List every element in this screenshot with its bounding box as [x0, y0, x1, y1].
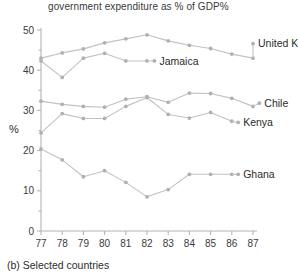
y-tick-label: 40: [23, 65, 35, 76]
data-point: [188, 91, 192, 95]
x-tick-label: 77: [35, 238, 47, 249]
data-point: [166, 113, 170, 117]
data-point: [39, 59, 43, 63]
data-point: [82, 117, 86, 121]
data-point: [60, 112, 64, 116]
x-tick-label: 82: [141, 238, 153, 249]
y-tick-labels-group: 01020304050: [23, 25, 35, 237]
series-label-chile: Chile: [264, 97, 288, 109]
data-point: [257, 101, 261, 105]
series-line-united-kingdom: [41, 35, 253, 58]
y-tick-label: 20: [23, 145, 35, 156]
series-line-jamaica: [41, 53, 147, 77]
data-point: [145, 96, 149, 100]
figure-caption: (b) Selected countries: [7, 259, 109, 271]
data-point: [60, 51, 64, 55]
data-point: [124, 97, 128, 101]
data-point: [103, 105, 107, 109]
data-point: [39, 99, 43, 103]
data-point: [103, 117, 107, 121]
figure-container: government expenditure as % of GDP% % 01…: [0, 0, 298, 280]
series-label-ghana: Ghana: [243, 168, 275, 180]
series-labels-group: United KingdomJamaicaChileKenyaGhana: [159, 37, 298, 180]
data-point: [39, 147, 43, 151]
data-point: [153, 59, 157, 63]
data-point: [39, 131, 43, 135]
y-tick-label: 50: [23, 25, 35, 36]
data-series-group: [39, 33, 261, 199]
data-point: [209, 92, 213, 96]
data-point: [145, 33, 149, 37]
x-tick-label: 80: [99, 238, 111, 249]
data-point: [103, 41, 107, 45]
series-line-kenya: [41, 98, 232, 133]
x-tick-label: 81: [120, 238, 132, 249]
data-point: [82, 175, 86, 179]
data-point: [145, 195, 149, 199]
data-point: [236, 121, 240, 125]
data-point: [60, 158, 64, 162]
data-point: [236, 172, 240, 176]
x-tick-label: 85: [205, 238, 217, 249]
data-point: [124, 104, 128, 108]
data-point: [124, 180, 128, 184]
data-point: [124, 37, 128, 41]
axes-group: [41, 28, 257, 231]
y-tick-label: 0: [28, 226, 34, 237]
x-tick-label: 86: [226, 238, 238, 249]
line-chart-plot: 01020304050 7778798081828384858687 Unite…: [0, 0, 298, 280]
y-tick-label: 10: [23, 185, 35, 196]
x-tick-label: 78: [57, 238, 69, 249]
data-point: [251, 42, 255, 46]
series-label-united-kingdom: United Kingdom: [258, 37, 298, 49]
data-point: [209, 111, 213, 115]
y-tick-label: 30: [23, 105, 35, 116]
data-point: [60, 102, 64, 106]
data-point: [188, 172, 192, 176]
series-label-jamaica: Jamaica: [159, 55, 198, 67]
data-point: [188, 43, 192, 47]
data-point: [166, 188, 170, 192]
x-tick-label: 79: [78, 238, 90, 249]
data-point: [82, 56, 86, 60]
x-tick-label: 87: [247, 238, 259, 249]
data-point: [209, 47, 213, 51]
data-point: [82, 47, 86, 51]
data-point: [166, 39, 170, 43]
x-tick-label: 83: [163, 238, 175, 249]
series-line-ghana: [41, 149, 232, 197]
series-label-kenya: Kenya: [243, 116, 273, 128]
data-point: [103, 51, 107, 55]
x-tick-labels-group: 7778798081828384858687: [35, 238, 259, 249]
data-point: [230, 96, 234, 100]
data-point: [60, 76, 64, 80]
data-point: [188, 116, 192, 120]
x-tick-label: 84: [184, 238, 196, 249]
data-point: [82, 104, 86, 108]
data-point: [166, 100, 170, 104]
data-point: [209, 172, 213, 176]
data-point: [230, 52, 234, 56]
data-point: [103, 169, 107, 173]
data-point: [124, 59, 128, 63]
